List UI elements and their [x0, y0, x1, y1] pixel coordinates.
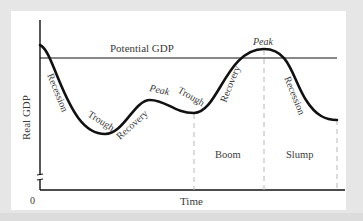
y-axis-label: Real GDP	[20, 95, 32, 140]
business-cycle-diagram: Potential GDP Real GDP Time 0 Recession …	[0, 0, 363, 221]
slump-label: Slump	[286, 149, 313, 160]
x-axis-label: Time	[180, 195, 203, 207]
trough-label-2: Trough	[176, 84, 207, 108]
origin-label: 0	[30, 195, 35, 206]
axis-break-mark	[37, 174, 43, 180]
recession-label-1: Recession	[45, 72, 70, 114]
boom-label: Boom	[215, 149, 241, 160]
potential-gdp-label: Potential GDP	[110, 42, 174, 54]
peak-label-1: Peak	[148, 82, 171, 97]
peak-label-2: Peak	[252, 36, 274, 47]
